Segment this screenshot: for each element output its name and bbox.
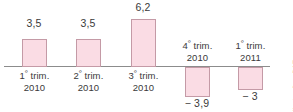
category-label-3: 3º trim. 2010 [115,70,172,93]
bar-2 [76,39,101,67]
value-label-1: 3,5 [10,17,58,29]
bar-chart: 3,5 1º trim. 2010 3,5 2º trim. 2010 6,2 … [0,0,293,112]
category-period-4: trim. [191,40,213,51]
value-label-2: 3,5 [64,17,112,29]
category-label-5: 1º trim. 2011 [222,40,279,63]
category-year-2: 2010 [60,82,117,94]
category-year-4: 2010 [169,52,226,64]
value-label-4: − 3,9 [173,97,221,109]
value-label-3: 6,2 [119,1,167,13]
category-period-5: trim. [244,40,266,51]
category-label-2: 2º trim. 2010 [60,70,117,93]
bar-5 [238,67,263,90]
category-label-1: 1º trim. 2010 [6,70,63,93]
bar-4 [185,67,210,97]
bar-1 [22,39,47,67]
category-label-4: 4º trim. 2010 [169,40,226,63]
bar-3 [131,19,156,67]
category-year-5: 2011 [222,52,279,64]
category-period-3: trim. [137,70,159,81]
category-period-1: trim. [28,70,50,81]
category-year-1: 2010 [6,82,63,94]
category-period-2: trim. [82,70,104,81]
illustration-credit: Ilustrações: DAE [292,60,293,112]
value-label-5: − 3 [226,90,274,102]
category-year-3: 2010 [115,82,172,94]
